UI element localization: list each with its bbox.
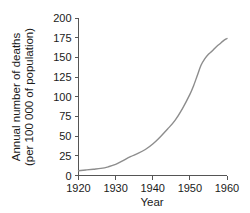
chart-container: 0255075100125150175200 19201930194019501…	[0, 0, 250, 213]
y-tick-label: 75	[59, 110, 71, 122]
y-tick-label: 175	[53, 32, 71, 44]
x-axis-ticks	[79, 176, 228, 180]
x-tick-label: 1950	[178, 182, 202, 194]
y-tick-label: 125	[53, 71, 71, 83]
y-tick-label: 100	[53, 91, 71, 103]
y-tick-label: 50	[59, 130, 71, 142]
x-tick-label: 1920	[66, 182, 90, 194]
y-axis-tick-labels: 0255075100125150175200	[53, 12, 71, 182]
y-axis-title-line1: Annual number of deaths	[10, 33, 22, 162]
line-chart: 0255075100125150175200 19201930194019501…	[0, 0, 250, 213]
y-axis-ticks	[75, 18, 79, 176]
y-tick-label: 0	[65, 170, 71, 182]
y-tick-label: 200	[53, 12, 71, 24]
y-tick-label: 150	[53, 51, 71, 63]
x-tick-label: 1940	[141, 182, 165, 194]
x-axis-title: Year	[140, 196, 163, 208]
data-series-line	[79, 38, 228, 170]
x-axis-tick-labels: 19201930194019501960	[66, 182, 239, 194]
x-tick-label: 1960	[215, 182, 239, 194]
y-tick-label: 25	[59, 150, 71, 162]
plot-axes	[79, 18, 228, 176]
x-tick-label: 1930	[103, 182, 127, 194]
y-axis-title-line2: (per 100 000 of population)	[23, 28, 35, 166]
